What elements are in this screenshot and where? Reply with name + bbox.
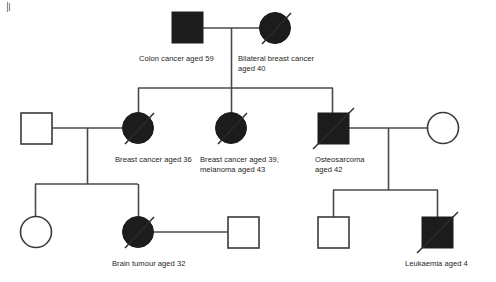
pedigree-diagram: Colon cancer aged 59 Bilateral breast ca… [0, 0, 496, 282]
pedigree-chart: Colon cancer aged 59 Bilateral breast ca… [0, 0, 496, 282]
label-bilateral-breast-cancer-line1: Bilateral breast cancer [238, 54, 314, 63]
scan-edge-artifact [8, 2, 10, 12]
label-breast-cancer-39-line1: Breast cancer aged 39, [200, 155, 279, 164]
label-bilateral-breast-cancer-line2: aged 40 [238, 64, 266, 73]
label-colon-cancer: Colon cancer aged 59 [139, 54, 214, 63]
individual-II-2-breast-cancer-36-female[interactable] [123, 113, 155, 145]
label-leukaemia: Leukaemia aged 4 [405, 259, 468, 268]
individual-III-4-unaffected-male[interactable] [318, 217, 349, 248]
individual-I-2-bilateral-breast-cancer-female[interactable] [260, 13, 292, 45]
individual-III-5-leukaemia-male[interactable] [417, 212, 458, 253]
label-breast-cancer-39-line2: melanoma aged 43 [200, 165, 265, 174]
individual-II-3-breast-cancer-39-melanoma-female[interactable] [216, 113, 248, 145]
individual-II-4-osteosarcoma-male[interactable] [313, 108, 354, 149]
individual-III-2-brain-tumour-female[interactable] [123, 217, 155, 249]
individual-II-1-unaffected-male[interactable] [21, 113, 52, 144]
label-brain-tumour: Brain tumour aged 32 [112, 259, 185, 268]
sibship-bar-generation-3-left [35, 184, 139, 217]
individual-III-3-unaffected-male[interactable] [228, 217, 259, 248]
label-osteosarcoma-line1: Osteosarcoma [315, 155, 365, 164]
sibship-bar-generation-3-right [333, 190, 438, 217]
individual-II-5-unaffected-female[interactable] [428, 113, 459, 144]
label-osteosarcoma-line2: aged 42 [315, 165, 343, 174]
sibship-bar-generation-2 [138, 88, 333, 113]
label-breast-cancer-36: Breast cancer aged 36 [115, 155, 192, 164]
couple-line-II-1-II-2 [52, 128, 123, 184]
individual-III-1-unaffected-female[interactable] [21, 217, 52, 248]
individual-I-1-colon-cancer-male[interactable] [172, 12, 203, 43]
